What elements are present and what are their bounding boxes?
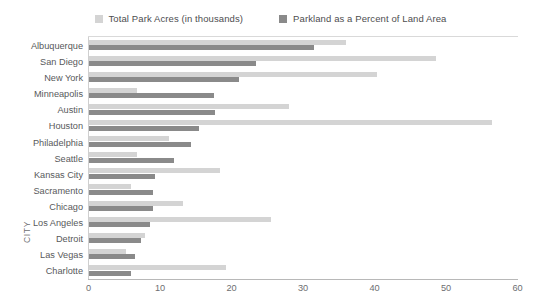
bar-total-park-acres <box>89 88 137 93</box>
bar-parkland-percent <box>89 174 155 179</box>
bar-row: Philadelphia <box>0 135 541 151</box>
bar-total-park-acres <box>89 233 145 238</box>
bar-total-park-acres <box>89 201 183 206</box>
bar-total-park-acres <box>89 136 169 141</box>
bar-total-park-acres <box>89 40 346 45</box>
bar-total-park-acres <box>89 249 126 254</box>
x-axis-tick-label: 40 <box>369 283 379 293</box>
bar-total-park-acres <box>89 184 131 189</box>
bar-row: Charlotte <box>0 263 541 279</box>
bar-row: Albuquerque <box>0 38 541 54</box>
bar-total-park-acres <box>89 104 289 109</box>
legend-item-total-park-acres: Total Park Acres (in thousands) <box>95 14 244 24</box>
bar-chart: Total Park Acres (in thousands) Parkland… <box>0 0 541 307</box>
bar-row-label: Las Vegas <box>0 247 83 263</box>
bar-parkland-percent <box>89 238 141 243</box>
bar-row-label: Charlotte <box>0 263 83 279</box>
bar-row: Detroit <box>0 231 541 247</box>
bar-total-park-acres <box>89 72 377 77</box>
bar-rows: AlbuquerqueSan DiegoNew YorkMinneapolisA… <box>0 38 541 279</box>
bar-row-label: Philadelphia <box>0 135 83 151</box>
legend-swatch-total-park-acres <box>95 15 103 23</box>
bar-row-label: Albuquerque <box>0 38 83 54</box>
bar-row-label: Los Angeles <box>0 215 83 231</box>
bar-row: Sacramento <box>0 183 541 199</box>
bar-row: Seattle <box>0 151 541 167</box>
bar-parkland-percent <box>89 45 314 50</box>
x-axis-ticks: 0102030405060 <box>0 283 541 303</box>
bar-parkland-percent <box>89 222 150 227</box>
bar-row-label: Kansas City <box>0 167 83 183</box>
bar-parkland-percent <box>89 77 239 82</box>
bar-parkland-percent <box>89 142 191 147</box>
x-axis-tick-label: 0 <box>86 283 91 293</box>
bar-row: Las Vegas <box>0 247 541 263</box>
bar-parkland-percent <box>89 271 131 276</box>
bar-total-park-acres <box>89 152 137 157</box>
bar-row: San Diego <box>0 54 541 70</box>
bar-row-label: San Diego <box>0 54 83 70</box>
chart-legend: Total Park Acres (in thousands) Parkland… <box>0 14 541 24</box>
legend-label-total-park-acres: Total Park Acres (in thousands) <box>109 14 244 24</box>
bar-row: Kansas City <box>0 167 541 183</box>
x-axis-tick-label: 30 <box>298 283 308 293</box>
bar-total-park-acres <box>89 168 220 173</box>
bar-row-label: Detroit <box>0 231 83 247</box>
bar-parkland-percent <box>89 190 153 195</box>
bar-parkland-percent <box>89 126 199 131</box>
bar-row: Minneapolis <box>0 86 541 102</box>
bar-row-label: Minneapolis <box>0 86 83 102</box>
bar-total-park-acres <box>89 56 436 61</box>
bar-row: Austin <box>0 102 541 118</box>
bar-total-park-acres <box>89 265 226 270</box>
bar-parkland-percent <box>89 254 135 259</box>
bar-parkland-percent <box>89 93 214 98</box>
bar-parkland-percent <box>89 61 256 66</box>
x-axis-tick-label: 60 <box>512 283 522 293</box>
bar-row-label: New York <box>0 70 83 86</box>
bar-row-label: Austin <box>0 102 83 118</box>
bar-row: Los Angeles <box>0 215 541 231</box>
x-axis-tick-label: 20 <box>226 283 236 293</box>
bar-row-label: Chicago <box>0 199 83 215</box>
x-axis-tick-label: 10 <box>155 283 165 293</box>
y-axis-title: CITY <box>22 221 32 243</box>
bar-parkland-percent <box>89 110 215 115</box>
bar-total-park-acres <box>89 120 492 125</box>
plot-top-rule <box>88 36 518 37</box>
bar-row: Chicago <box>0 199 541 215</box>
bar-total-park-acres <box>89 217 271 222</box>
bar-row: New York <box>0 70 541 86</box>
x-axis-tick-label: 50 <box>441 283 451 293</box>
bar-row: Houston <box>0 118 541 134</box>
legend-item-parkland-percent: Parkland as a Percent of Land Area <box>279 14 446 24</box>
legend-label-parkland-percent: Parkland as a Percent of Land Area <box>293 14 446 24</box>
bar-row-label: Seattle <box>0 151 83 167</box>
bar-parkland-percent <box>89 158 174 163</box>
bar-parkland-percent <box>89 206 153 211</box>
bar-row-label: Houston <box>0 118 83 134</box>
bar-row-label: Sacramento <box>0 183 83 199</box>
legend-swatch-parkland-percent <box>279 15 287 23</box>
